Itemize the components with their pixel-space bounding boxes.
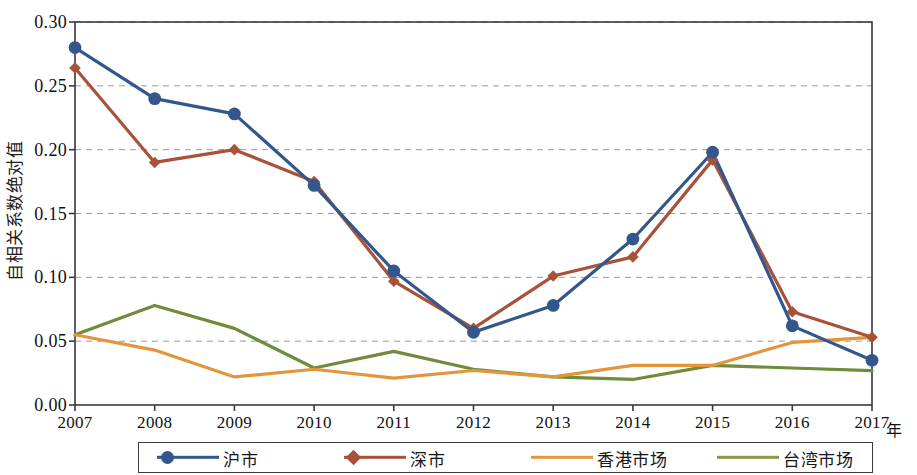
legend-label: 沪市 <box>223 445 258 470</box>
legend-swatch <box>717 449 779 467</box>
legend-item[interactable]: 香港市场 <box>531 445 667 470</box>
plot-area <box>0 0 917 475</box>
data-point-marker <box>69 41 82 54</box>
legend-marker-circle-icon <box>161 451 174 464</box>
data-point-marker <box>387 265 400 278</box>
legend-item[interactable]: 台湾市场 <box>717 445 853 470</box>
legend-label: 香港市场 <box>597 445 667 470</box>
legend-item[interactable]: 深市 <box>344 445 445 470</box>
legend-line-icon <box>717 456 779 459</box>
data-point-marker <box>706 146 719 159</box>
legend-label: 台湾市场 <box>783 445 853 470</box>
data-point-marker <box>228 108 241 121</box>
data-point-marker <box>467 326 480 339</box>
legend-swatch <box>157 449 219 467</box>
data-point-marker <box>148 92 161 105</box>
data-point-marker <box>547 299 560 312</box>
data-point-marker <box>308 179 321 192</box>
legend-item[interactable]: 沪市 <box>157 445 258 470</box>
legend-line-icon <box>531 456 593 459</box>
data-point-marker <box>627 233 640 246</box>
legend-marker-diamond-icon <box>346 450 362 466</box>
data-point-marker <box>786 319 799 332</box>
legend-label: 深市 <box>410 445 445 470</box>
chart-legend: 沪市深市香港市场台湾市场 <box>138 442 873 473</box>
data-point-marker <box>866 354 879 367</box>
legend-swatch <box>344 449 406 467</box>
legend-swatch <box>531 449 593 467</box>
chart-figure: 自相关系数绝对值 0.000.050.100.150.200.250.30 20… <box>0 0 917 475</box>
